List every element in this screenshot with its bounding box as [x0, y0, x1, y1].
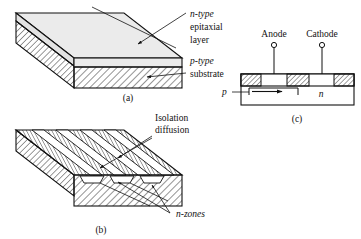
- epitaxial-front-face: [74, 58, 182, 67]
- epitaxial-leader-line: [138, 13, 186, 44]
- n-zones: [80, 176, 164, 183]
- isolation-region-middle: [287, 74, 309, 86]
- p-region-label: p: [221, 87, 227, 97]
- substrate-label-line2: substrate: [190, 69, 224, 79]
- panel-c-cross-section: p n Anode Cathode (c): [221, 29, 354, 125]
- n-zone-2: [110, 176, 134, 183]
- nzones-label: n-zones: [176, 209, 205, 219]
- panel-b-caption: (b): [95, 225, 106, 236]
- panel-a-epitaxial-wafer: n-type epitaxial layer p-type substrate …: [16, 7, 224, 104]
- epitaxial-label-line2: epitaxial: [190, 22, 223, 32]
- panel-c-caption: (c): [292, 114, 303, 125]
- anode-label: Anode: [261, 29, 286, 39]
- isolation-region-left: [241, 74, 261, 86]
- panel-b-isolation-diffusion: Isolation diffusion n-zones (b): [16, 113, 205, 236]
- epitaxial-label-line3: layer: [190, 35, 210, 45]
- panel-a-caption: (a): [123, 93, 134, 104]
- n-zone-1: [80, 176, 104, 183]
- semiconductor-fabrication-figure: n-type epitaxial layer p-type substrate …: [0, 0, 361, 239]
- epitaxial-label-line1: n-type: [190, 9, 214, 19]
- isolation-region-right: [334, 74, 354, 86]
- substrate-label-line1: p-type: [189, 56, 214, 66]
- isolation-label-line1: Isolation: [155, 113, 188, 123]
- substrate-front-face: [74, 67, 182, 88]
- cathode-terminal-icon: [319, 42, 324, 47]
- n-region-label: n: [319, 89, 324, 99]
- n-zone-3: [140, 176, 164, 183]
- anode-terminal-icon: [271, 42, 276, 47]
- cathode-label: Cathode: [306, 29, 338, 39]
- isolation-label-line2: diffusion: [155, 125, 189, 135]
